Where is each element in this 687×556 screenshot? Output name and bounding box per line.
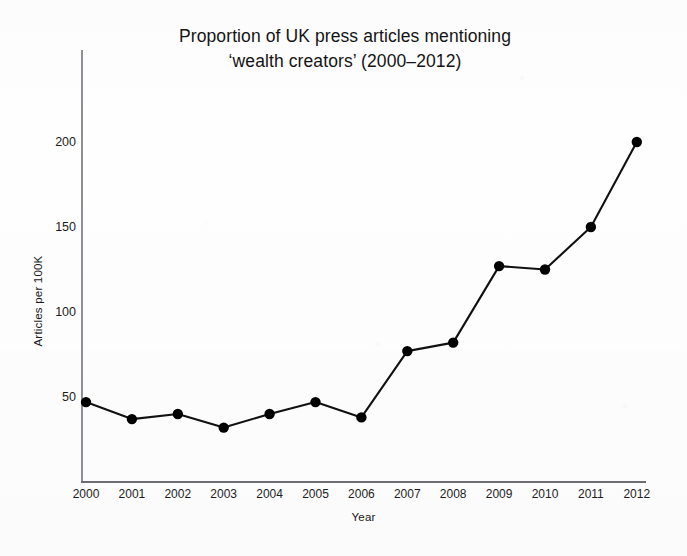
data-point-marker — [632, 137, 642, 147]
data-point-marker — [81, 397, 91, 407]
data-point-marker — [219, 422, 229, 432]
data-point-marker — [402, 346, 412, 356]
series-polyline — [86, 142, 637, 428]
data-point-marker — [356, 412, 366, 422]
data-point-marker — [586, 222, 596, 232]
data-point-marker — [173, 409, 183, 419]
chart-page: Proportion of UK press articles mentioni… — [0, 0, 687, 556]
series-markers — [81, 137, 642, 433]
data-point-marker — [127, 414, 137, 424]
data-point-marker — [448, 337, 458, 347]
data-series-line — [0, 0, 687, 556]
plot-area: 50100150200 2000200120022003200420052006… — [0, 0, 687, 556]
data-point-marker — [310, 397, 320, 407]
data-point-marker — [494, 261, 504, 271]
data-point-marker — [264, 409, 274, 419]
data-point-marker — [540, 264, 550, 274]
